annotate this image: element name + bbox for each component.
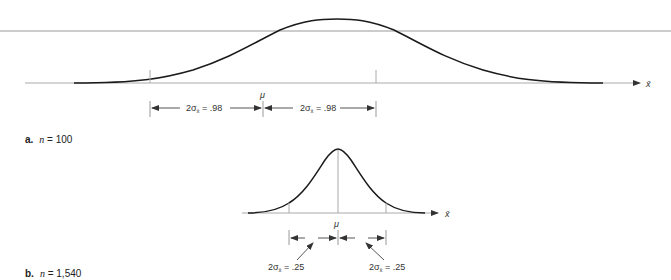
normal-curve-a xyxy=(74,19,603,83)
interval-label-left-a: 2σx̄ = .98 xyxy=(186,103,222,114)
caption-b: b.n = 1,540 xyxy=(25,268,81,279)
caption-b-letter: b. xyxy=(25,268,34,279)
pointer-left-b xyxy=(297,243,313,260)
axis-label-b: x̄ xyxy=(444,209,450,219)
interval-label-left-b: 2σx̄ = .25 xyxy=(268,262,304,273)
panel-b: μ x̄ 2σx̄ = .25 2σx̄ = .25 xyxy=(242,149,450,273)
caption-a-letter: a. xyxy=(25,134,33,145)
normal-curve-b xyxy=(248,149,425,213)
caption-b-value: = 1,540 xyxy=(45,268,81,279)
caption-a-value: = 100 xyxy=(44,134,72,145)
mean-label-b: μ xyxy=(333,219,339,229)
sampling-distribution-diagram: μ x̄ 2σx̄ = .98 2σx̄ = .98 μ x̄ 2σx̄ = .… xyxy=(0,0,671,280)
interval-label-right-b: 2σx̄ = .25 xyxy=(369,262,405,273)
axis-label-a: x̄ xyxy=(645,79,651,89)
panel-a: μ x̄ 2σx̄ = .98 2σx̄ = .98 xyxy=(0,19,671,117)
pointer-right-b xyxy=(366,243,384,260)
caption-a: a.n = 100 xyxy=(25,134,72,145)
interval-label-right-a: 2σx̄ = .98 xyxy=(300,103,336,114)
mean-label-a: μ xyxy=(259,90,265,100)
